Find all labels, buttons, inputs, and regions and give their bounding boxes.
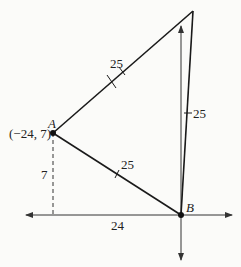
label-leg-horizontal: 24	[111, 218, 125, 233]
label-A-coords: (−24, 7)	[9, 126, 51, 141]
label-side-AB: 25	[121, 157, 134, 172]
label-B: B	[186, 200, 194, 215]
label-side-AC: 25	[110, 56, 123, 71]
tick-AC-1	[107, 75, 116, 88]
label-leg-vertical: 7	[41, 167, 48, 182]
triangle-diagram: A (−24, 7) B 25 25 25 7 24	[0, 0, 241, 267]
label-side-BC: 25	[193, 106, 206, 121]
point-B	[178, 212, 184, 218]
